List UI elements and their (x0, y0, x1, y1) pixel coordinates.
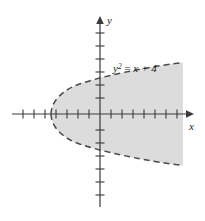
y-axis-arrowhead (96, 16, 104, 24)
coordinate-plot: x y y2 = x + 4 (0, 0, 205, 221)
x-axis-arrowhead (186, 110, 194, 118)
parabola-region-figure: x y y2 = x + 4 (0, 0, 205, 221)
equation-relation: = (122, 62, 134, 74)
curve-equation-label: y2 = x + 4 (112, 62, 157, 75)
equation-right-side: x + 4 (132, 62, 157, 74)
x-axis-label: x (188, 120, 194, 132)
y-axis-label: y (106, 14, 112, 26)
